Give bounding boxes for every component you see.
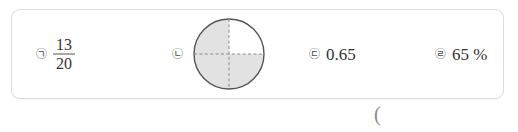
- option-value-c: 0.65: [326, 46, 356, 63]
- circle-quarters-diagram-icon: [192, 17, 266, 91]
- fraction-denominator: 20: [54, 55, 74, 72]
- option-marker-b: ㉡: [172, 49, 183, 60]
- answer-parenthesis: (: [374, 104, 381, 124]
- option-marker-d: ㉣: [435, 49, 446, 60]
- option-marker-c: ㉢: [309, 49, 320, 60]
- option-marker-a: ㉠: [36, 49, 47, 60]
- fraction-13-20: 13 20: [53, 37, 75, 72]
- choice-box: ㉠ 13 20 ㉡: [11, 9, 504, 99]
- option-item-a[interactable]: ㉠ 13 20: [36, 37, 75, 72]
- option-value-d: 65 %: [452, 46, 487, 63]
- options-row: ㉠ 13 20 ㉡: [12, 10, 503, 98]
- fraction-numerator: 13: [54, 37, 74, 54]
- option-item-b[interactable]: ㉡: [172, 17, 266, 91]
- page-root: ㉠ 13 20 ㉡: [0, 0, 518, 132]
- option-item-d[interactable]: ㉣ 65 %: [435, 46, 487, 63]
- option-item-c[interactable]: ㉢ 0.65: [309, 46, 356, 63]
